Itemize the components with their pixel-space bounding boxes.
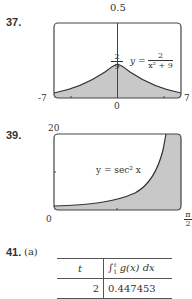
problem-number-41: 41.: [6, 246, 21, 258]
x-max-label-39: π 2: [184, 211, 192, 228]
table-row: 2 0.447453: [57, 279, 172, 299]
equation-39: y = sec² x: [96, 165, 141, 175]
part-label-a: (a): [24, 246, 38, 257]
cell-t: 2: [57, 279, 104, 299]
x-zero-label-37: 0: [114, 101, 120, 111]
integral-table: t ∫1t g(x) dx 2 0.447453: [57, 258, 172, 299]
x-zero-label-39: 0: [46, 214, 52, 224]
problem-number-39: 39.: [6, 129, 21, 141]
x-max-label-37: 7: [184, 93, 190, 103]
table-header-row: t ∫1t g(x) dx: [57, 259, 172, 279]
header-integral: ∫1t g(x) dx: [104, 259, 173, 279]
header-t: t: [57, 259, 104, 279]
cell-value: 0.447453: [104, 279, 173, 299]
equation-37: y = 2 x² + 9: [130, 51, 173, 70]
y-max-label-39: 20: [48, 123, 59, 133]
x-min-label-37: -7: [38, 93, 47, 103]
peak-label-37: 2 9: [111, 52, 123, 71]
